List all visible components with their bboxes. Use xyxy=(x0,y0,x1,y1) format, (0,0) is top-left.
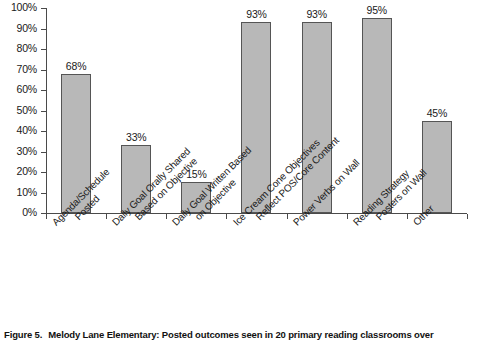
y-axis-tick-label: 50% xyxy=(17,104,37,116)
bar-value-label: 33% xyxy=(126,131,146,143)
bar-value-label: 93% xyxy=(306,8,326,20)
y-axis-ticks: 0%10%20%30%40%50%60%70%80%90%100% xyxy=(0,8,46,214)
y-axis-tick-label: 90% xyxy=(17,22,37,34)
y-axis-tick-label: 40% xyxy=(17,124,37,136)
x-axis-tick-mark xyxy=(166,214,167,219)
y-axis-tick-label: 70% xyxy=(17,63,37,75)
figure-caption-label: Figure 5. xyxy=(4,329,42,340)
x-axis-tick-mark xyxy=(46,214,47,219)
x-axis-tick-mark xyxy=(226,214,227,219)
x-axis-tick-mark xyxy=(407,214,408,219)
x-axis-tick-mark xyxy=(287,214,288,219)
x-axis-tick-mark xyxy=(106,214,107,219)
bar-value-label: 68% xyxy=(66,60,86,72)
figure-caption: Figure 5.Melody Lane Elementary: Posted … xyxy=(4,329,487,340)
y-axis-tick-label: 80% xyxy=(17,42,37,54)
y-axis-tick-label: 0% xyxy=(22,206,37,218)
y-axis-tick-label: 60% xyxy=(17,83,37,95)
x-axis-tick-mark xyxy=(467,214,468,219)
y-axis-tick-label: 30% xyxy=(17,145,37,157)
x-axis-tick-mark xyxy=(347,214,348,219)
figure-bar-chart: 0%10%20%30%40%50%60%70%80%90%100% 68%33%… xyxy=(0,0,487,340)
bar-value-label: 95% xyxy=(367,4,387,16)
y-axis-tick-label: 20% xyxy=(17,165,37,177)
y-axis-tick-label: 10% xyxy=(17,186,37,198)
x-axis-category-labels: Agenda/SchedulePostedDaily Goal Orally S… xyxy=(46,220,487,320)
bar: 45% xyxy=(422,121,452,213)
figure-caption-text: Melody Lane Elementary: Posted outcomes … xyxy=(48,329,433,340)
y-axis-tick-label: 100% xyxy=(11,1,37,13)
bar-value-label: 45% xyxy=(427,107,447,119)
bar-value-label: 93% xyxy=(246,8,266,20)
